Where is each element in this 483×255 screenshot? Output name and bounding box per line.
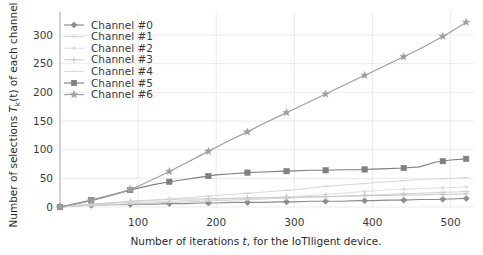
series-marker-star	[439, 32, 447, 39]
series-marker-square	[71, 80, 76, 85]
line-chart-canvas: 050100150200250300100200300400500 Number…	[0, 0, 483, 255]
y-tick-label: 300	[33, 29, 53, 41]
y-tick-label: 150	[33, 115, 53, 127]
x-tick-label: 300	[284, 216, 304, 228]
x-tick-label: 100	[128, 216, 148, 228]
series-marker-star	[205, 147, 213, 154]
legend-label: Channel #2	[91, 42, 153, 54]
series-marker-star	[322, 90, 330, 97]
axis-title-layer: Number of iterations t, for the IoTIlige…	[7, 2, 382, 247]
series-marker-plus	[361, 193, 367, 199]
y-tick-label: 200	[33, 86, 53, 98]
legend-item-channel-5[interactable]: Channel #5	[64, 77, 153, 89]
series-marker-plus	[400, 192, 406, 198]
x-axis-title: Number of iterations t, for the IoTIlige…	[130, 235, 381, 247]
legend-label: Channel #3	[91, 53, 153, 65]
legend-label: Channel #6	[91, 88, 153, 100]
series-marker-star	[166, 167, 174, 174]
series-marker-diamond	[71, 22, 77, 28]
x-tick-label: 200	[206, 216, 226, 228]
legend-label: Channel #4	[91, 65, 153, 77]
legend: Channel #0Channel #1Channel #2Channel #3…	[64, 19, 153, 101]
x-tick-label: 500	[441, 216, 461, 228]
legend-item-channel-0[interactable]: Channel #0	[64, 19, 153, 31]
legend-item-channel-1[interactable]: Channel #1	[64, 30, 153, 42]
y-axis-title: Number of selections Tk(t) of each chann…	[7, 2, 22, 227]
series-marker-square	[440, 158, 445, 163]
x-tick-label: 400	[362, 216, 382, 228]
series-marker-dot	[72, 47, 75, 50]
series-marker-square	[245, 170, 250, 175]
series-marker-plus	[71, 57, 77, 63]
legend-label: Channel #0	[91, 19, 153, 31]
series-marker-dot	[402, 188, 405, 191]
axis-layer	[56, 12, 60, 207]
series-marker-star	[244, 128, 252, 135]
legend-label: Channel #5	[91, 77, 153, 89]
series-marker-square	[206, 173, 211, 178]
series-marker-star	[70, 91, 78, 98]
series-marker-dot	[441, 186, 444, 189]
series-marker-square	[167, 179, 172, 184]
legend-item-channel-4[interactable]: Channel #4	[64, 65, 153, 77]
legend-item-channel-6[interactable]: Channel #6	[64, 88, 153, 100]
series-marker-dot	[465, 185, 468, 188]
series-marker-star	[400, 53, 408, 60]
series-marker-square	[463, 156, 468, 161]
series-marker-square	[323, 168, 328, 173]
series-marker-star	[283, 109, 291, 116]
series-marker-square	[284, 168, 289, 173]
legend-label: Channel #1	[91, 30, 153, 42]
series-marker-square	[362, 167, 367, 172]
y-tick-label: 100	[33, 143, 53, 155]
series-marker-plus	[283, 194, 289, 200]
y-tick-label: 250	[33, 57, 53, 69]
series-marker-star	[361, 71, 369, 78]
legend-item-channel-2[interactable]: Channel #2	[64, 42, 153, 54]
y-tick-label: 50	[40, 172, 53, 184]
y-tick-label: 0	[46, 201, 53, 213]
series-marker-square	[401, 165, 406, 170]
chart-figure: 050100150200250300100200300400500 Number…	[0, 0, 483, 255]
